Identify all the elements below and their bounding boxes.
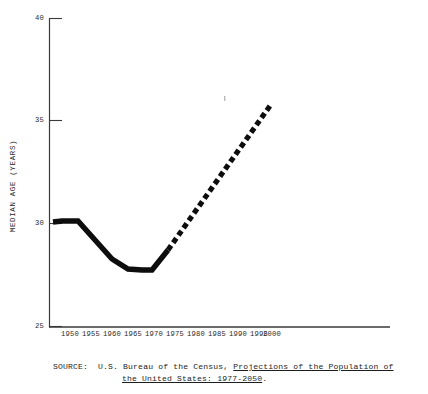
projection-line (168, 103, 272, 250)
chart-container: 40 35 30 25 1950 1955 1960 1965 1970 197… (0, 0, 428, 352)
x-tick-label-2000: 2000 (259, 330, 285, 338)
source-title-part2: the United States: 1977-2050 (122, 374, 262, 383)
historical-line (53, 221, 168, 270)
y-tick-label-40: 40 (22, 14, 44, 22)
source-label: SOURCE: (53, 362, 88, 371)
y-tick-label-30: 30 (22, 219, 44, 227)
source-line-1: SOURCE:U.S. Bureau of the Census, Projec… (53, 361, 413, 373)
source-period: . (262, 374, 267, 383)
median-age-line-chart (0, 0, 428, 352)
source-title-part1: Projections of the Population of (233, 362, 393, 371)
y-axis-ticks (50, 19, 63, 327)
source-publisher: U.S. Bureau of the Census, (98, 362, 233, 371)
scan-artifact (224, 96, 225, 101)
y-tick-label-35: 35 (22, 116, 44, 124)
y-tick-label-25: 25 (22, 322, 44, 330)
source-note: SOURCE:U.S. Bureau of the Census, Projec… (53, 361, 413, 385)
y-axis-title: MEDIAN AGE (YEARS) (9, 131, 17, 241)
source-line-2: the United States: 1977-2050. (122, 373, 413, 385)
